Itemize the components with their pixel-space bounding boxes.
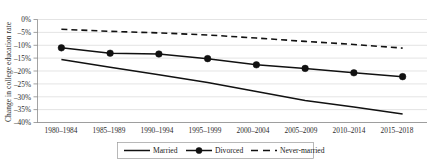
x-tick-label-6: 2010–2014 xyxy=(333,126,366,135)
data-point-divorced xyxy=(58,45,65,52)
data-point-divorced xyxy=(399,73,406,80)
x-tick-label-7: 2015–2018 xyxy=(381,126,414,135)
x-tick-label-1: 1985–1989 xyxy=(93,126,126,135)
y-tick-label-7: –35% xyxy=(13,105,31,114)
x-tick-label-5: 2005–2009 xyxy=(285,126,318,135)
legend-label-married: Married xyxy=(153,146,178,155)
line-chart: 0% –5% –10% –15% –20% –25% –30% –35% –40… xyxy=(0,0,431,164)
x-tick-label-0: 1980–1984 xyxy=(45,126,78,135)
legend-marker-divorced xyxy=(196,147,202,153)
series-line-married xyxy=(61,59,402,114)
y-tick-label-6: –30% xyxy=(13,93,31,102)
data-point-divorced xyxy=(204,55,211,62)
y-tick-label-2: –10% xyxy=(13,41,31,50)
gridlines xyxy=(37,20,427,123)
y-tick-label-0: 0% xyxy=(21,15,31,24)
y-tick-label-5: –25% xyxy=(13,80,31,89)
data-point-divorced xyxy=(107,50,114,57)
data-point-divorced xyxy=(351,70,358,77)
chart-container: 0% –5% –10% –15% –20% –25% –30% –35% –40… xyxy=(0,0,431,164)
y-tick-label-3: –15% xyxy=(13,54,31,63)
x-tick-label-3: 1995–1999 xyxy=(189,126,222,135)
legend: Married Divorced Never-married xyxy=(118,143,325,159)
legend-label-never-married: Never-married xyxy=(280,146,325,155)
x-tick-label-4: 2000–2004 xyxy=(237,126,270,135)
x-tick-label-2: 1990–1994 xyxy=(141,126,174,135)
data-point-divorced xyxy=(302,65,309,72)
y-tick-label-8: –40% xyxy=(13,118,31,127)
y-axis xyxy=(34,20,38,123)
y-tick-label-4: –20% xyxy=(13,67,31,76)
legend-label-divorced: Divorced xyxy=(215,146,243,155)
y-tick-label-1: –5% xyxy=(17,28,31,37)
y-axis-title: Change in college education rate xyxy=(4,21,13,122)
x-axis-tick-labels: 1980–1984 1985–1989 1990–1994 1995–1999 … xyxy=(45,126,414,135)
data-point-divorced xyxy=(253,62,260,69)
data-point-divorced xyxy=(156,51,163,58)
y-axis-tick-labels: 0% –5% –10% –15% –20% –25% –30% –35% –40… xyxy=(13,15,31,127)
